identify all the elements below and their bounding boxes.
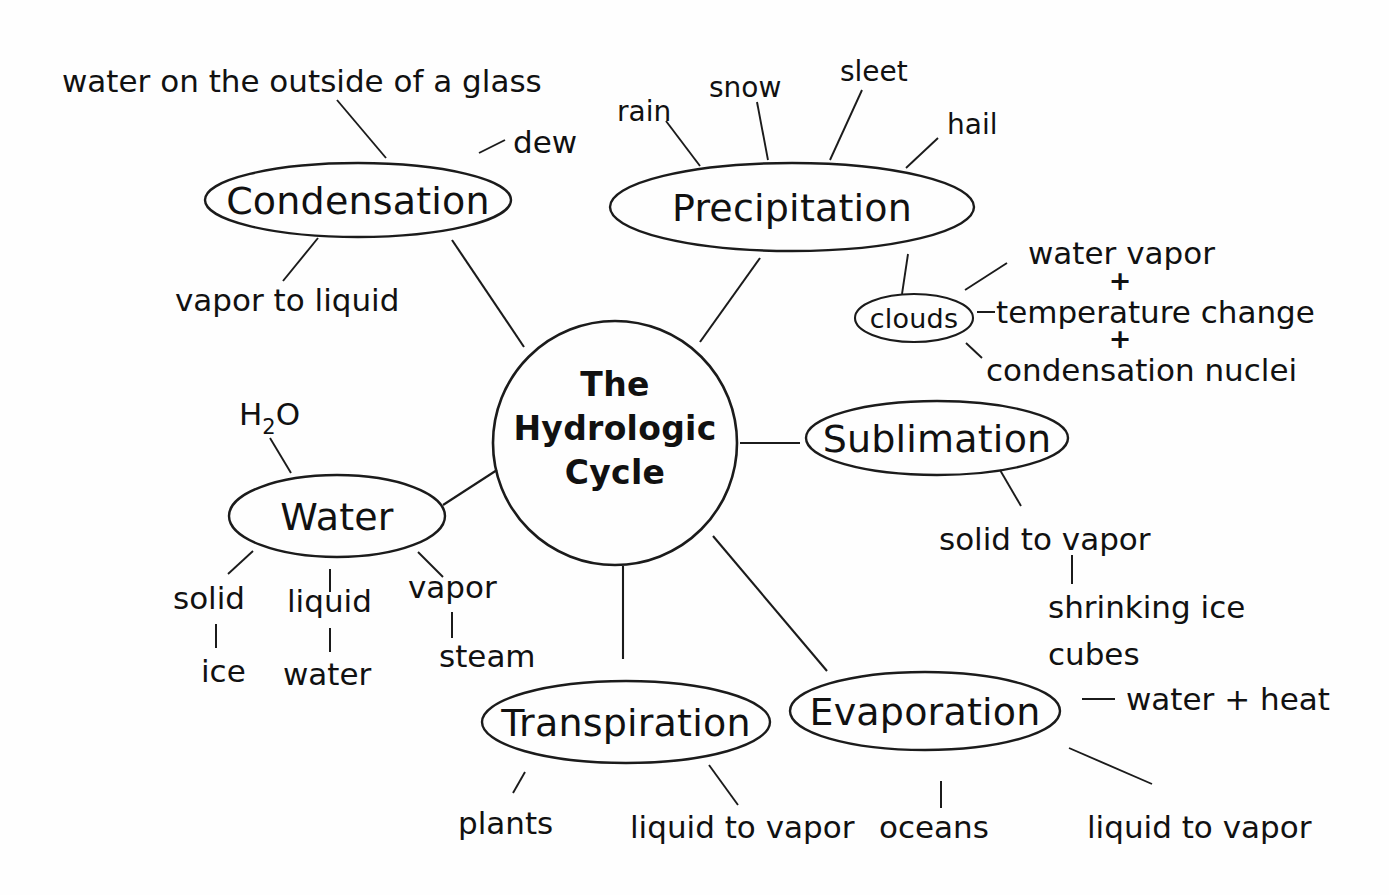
label-plants: plants: [458, 805, 553, 841]
label-vapor-to-liquid: vapor to liquid: [175, 282, 399, 318]
label-cubes: cubes: [1048, 636, 1140, 672]
label-liquid: liquid: [287, 583, 372, 619]
label-plus-two: +: [1109, 323, 1132, 354]
node-transpiration-label: Transpiration: [500, 701, 750, 745]
transpiration-branch: Transpiration plants liquid to vapor: [458, 681, 855, 845]
connector-center-to-precipitation: [700, 258, 760, 342]
label-plus-one: +: [1109, 265, 1132, 296]
concept-map-canvas: Condensation water on the outside of a g…: [0, 0, 1389, 895]
hydrologic-cycle-concept-map: Condensation water on the outside of a g…: [0, 0, 1389, 895]
clouds-branch: clouds water vapor + temperature change …: [855, 235, 1315, 388]
connector-transpiration-to-plants: [513, 772, 525, 793]
label-h2o-o: O: [276, 396, 300, 432]
connector-transpiration-to-liquid-to-vapor: [709, 765, 738, 805]
label-snow: snow: [709, 71, 781, 104]
center-label-line2: Hydrologic: [513, 409, 716, 448]
connector-precipitation-to-clouds: [902, 254, 908, 294]
label-condensation-nuclei: condensation nuclei: [986, 352, 1297, 388]
connector-water-to-solid: [228, 551, 253, 574]
label-dew: dew: [513, 124, 577, 160]
connector-center-to-condensation: [452, 240, 524, 347]
label-solid-to-vapor: solid to vapor: [939, 521, 1151, 557]
water-branch: Water H2O solid liquid vapor ice water s…: [173, 396, 536, 692]
node-clouds-label: clouds: [870, 303, 958, 334]
label-water-plus-heat: water + heat: [1126, 681, 1330, 717]
center-label-line3: Cycle: [565, 453, 665, 492]
label-h2o-h: H: [239, 396, 262, 432]
label-liquid-to-vapor-evap: liquid to vapor: [1087, 809, 1312, 845]
node-evaporation-label: Evaporation: [809, 690, 1040, 734]
label-temperature-change: temperature change: [996, 294, 1315, 330]
node-sublimation-label: Sublimation: [823, 417, 1052, 461]
label-oceans: oceans: [879, 809, 989, 845]
connector-sublimation-to-solid-to-vapor: [1000, 470, 1021, 506]
label-liquid-to-vapor-trans: liquid to vapor: [630, 809, 855, 845]
connector-precipitation-to-snow: [757, 102, 768, 160]
label-water-state: water: [283, 656, 372, 692]
connector-condensation-to-vapor-to-liquid: [283, 238, 318, 281]
connector-precipitation-to-sleet: [830, 90, 862, 160]
connector-condensation-to-dew: [479, 140, 505, 153]
center-label-line1: The: [580, 365, 649, 404]
connector-water-to-h2o: [270, 438, 291, 473]
connector-clouds-to-water-vapor: [965, 263, 1007, 290]
connector-evaporation-to-liquid-to-vapor: [1069, 748, 1152, 784]
label-hail: hail: [947, 108, 997, 141]
connector-center-to-water: [443, 470, 497, 505]
center-node: The Hydrologic Cycle: [493, 321, 737, 565]
precipitation-branch: Precipitation rain snow sleet hail: [610, 55, 997, 294]
node-precipitation-label: Precipitation: [672, 186, 912, 230]
label-ice: ice: [201, 653, 246, 689]
connector-precipitation-to-hail: [906, 138, 938, 168]
label-sleet: sleet: [840, 55, 908, 88]
evaporation-branch: Evaporation water + heat liquid to vapor…: [790, 672, 1330, 845]
sublimation-branch: Sublimation solid to vapor shrinking ice…: [806, 401, 1245, 672]
node-condensation-label: Condensation: [226, 179, 490, 223]
label-h2o: H2O: [239, 396, 300, 439]
label-solid: solid: [173, 580, 245, 616]
label-vapor: vapor: [408, 569, 497, 605]
label-h2o-subscript: 2: [262, 415, 275, 439]
node-water-label: Water: [280, 495, 394, 539]
connector-center-to-evaporation: [713, 536, 827, 671]
label-rain: rain: [617, 95, 671, 128]
connector-condensation-to-water-on-glass: [337, 100, 386, 158]
label-water-on-glass: water on the outside of a glass: [62, 63, 542, 99]
condensation-branch: Condensation water on the outside of a g…: [62, 63, 577, 318]
label-shrinking-ice: shrinking ice: [1048, 589, 1245, 625]
label-steam: steam: [439, 638, 536, 674]
connector-clouds-to-condensation-nuclei: [966, 343, 982, 358]
